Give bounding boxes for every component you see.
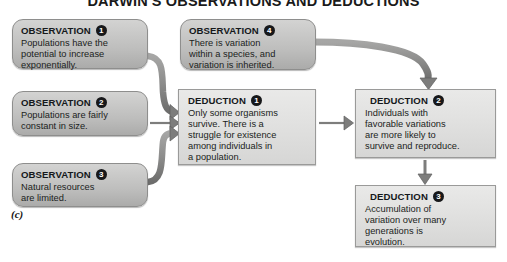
deduction-1-text: Only some organisms survive. There is a … <box>188 108 306 163</box>
deduction-3-header: DEDUCTION 3 <box>370 191 486 202</box>
observation-4-text: There is variation within a species, and… <box>189 38 307 71</box>
deduction-box-3: DEDUCTION 3 Accumulation of variation ov… <box>355 185 496 247</box>
observation-box-2: OBSERVATION 2 Populations are fairly con… <box>12 91 148 136</box>
arrow-observation3-to-deduction1 <box>148 126 180 182</box>
deduction-box-1: DEDUCTION 1 Only some organisms survive.… <box>178 89 316 165</box>
observation-3-text: Natural resources are limited. <box>21 182 139 204</box>
deduction-box-2: DEDUCTION 2 Individuals with favorable v… <box>355 89 496 158</box>
deduction-2-badge: 2 <box>433 95 444 106</box>
observation-3-header: OBSERVATION 3 <box>21 169 139 180</box>
observation-4-header: OBSERVATION 4 <box>189 25 307 36</box>
observation-box-4: OBSERVATION 4 There is variation within … <box>180 19 316 70</box>
observation-3-badge: 3 <box>96 169 107 180</box>
observation-4-badge: 4 <box>264 25 275 36</box>
arrow-observation4-to-deduction2 <box>314 42 437 90</box>
observation-1-label: OBSERVATION <box>21 25 91 36</box>
deduction-2-label: DEDUCTION <box>370 95 428 106</box>
deduction-3-badge: 3 <box>433 191 444 202</box>
observation-1-text: Populations have the potential to increa… <box>21 38 139 71</box>
observation-3-label: OBSERVATION <box>21 169 91 180</box>
arrow-deduction2-to-deduction3 <box>418 160 432 185</box>
deduction-3-label: DEDUCTION <box>370 191 428 202</box>
figure-canvas: DARWIN'S OBSERVATIONS AND DEDUCTIONS <box>0 0 507 262</box>
observation-2-badge: 2 <box>96 97 107 108</box>
deduction-1-label: DEDUCTION <box>188 95 246 106</box>
observation-box-3: OBSERVATION 3 Natural resources are limi… <box>12 163 148 207</box>
arrow-observation1-to-deduction1 <box>148 56 180 120</box>
observation-1-header: OBSERVATION 1 <box>21 25 139 36</box>
observation-4-label: OBSERVATION <box>189 25 259 36</box>
deduction-2-text: Individuals with favorable variations ar… <box>365 108 486 152</box>
observation-2-label: OBSERVATION <box>21 97 91 108</box>
deduction-1-header: DEDUCTION 1 <box>188 95 306 106</box>
deduction-1-badge: 1 <box>251 95 262 106</box>
observation-1-badge: 1 <box>96 25 107 36</box>
observation-box-1: OBSERVATION 1 Populations have the poten… <box>12 19 148 69</box>
arrow-deduction1-to-deduction2 <box>319 116 354 130</box>
deduction-2-header: DEDUCTION 2 <box>370 95 486 106</box>
arrow-observation2-to-deduction1 <box>150 116 180 130</box>
observation-2-header: OBSERVATION 2 <box>21 97 139 108</box>
observation-2-text: Populations are fairly constant in size. <box>21 110 139 132</box>
deduction-3-text: Accumulation of variation over many gene… <box>365 204 486 248</box>
figure-part-caption: (c) <box>11 208 23 220</box>
